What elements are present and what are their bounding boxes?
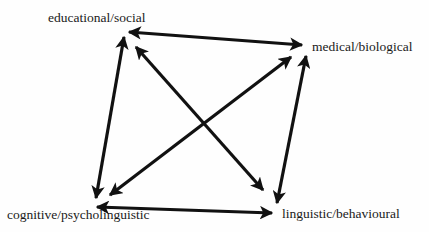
arrow-educational-medical bbox=[129, 32, 302, 45]
arrows-layer bbox=[0, 0, 429, 232]
arrow-cognitive-linguistic bbox=[97, 207, 272, 213]
arrow-medical-cognitive bbox=[110, 57, 291, 195]
arrow-educational-linguistic bbox=[136, 47, 263, 190]
arrow-medical-linguistic bbox=[277, 56, 306, 203]
diagram-canvas: educational/social medical/biological co… bbox=[0, 0, 429, 232]
arrow-educational-cognitive bbox=[96, 37, 124, 198]
